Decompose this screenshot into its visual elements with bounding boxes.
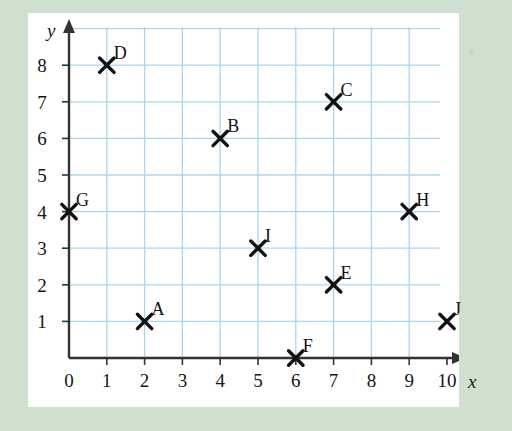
x-tick-label: 10 — [432, 371, 462, 390]
x-tick-label: 2 — [130, 371, 160, 390]
axis-ticks — [62, 65, 447, 365]
plot-canvas — [28, 13, 459, 407]
point-label-h: H — [416, 191, 429, 209]
x-tick-label: 8 — [356, 371, 386, 390]
x-axis-arrowhead — [452, 352, 459, 364]
y-tick-label: 5 — [31, 166, 53, 185]
y-tick-label: 7 — [31, 93, 53, 112]
x-tick-label: 7 — [319, 371, 349, 390]
grid-lines — [69, 27, 440, 358]
point-label-f: F — [303, 337, 313, 355]
x-tick-label: 6 — [281, 371, 311, 390]
x-tick-label: 3 — [167, 371, 197, 390]
x-tick-label: 9 — [394, 371, 424, 390]
chart-white-panel: 01234567891012345678 ABCDEFGHIJ y x — [28, 13, 459, 407]
x-tick-label: 1 — [92, 371, 122, 390]
y-tick-label: 1 — [31, 312, 53, 331]
data-point-j[interactable] — [440, 314, 454, 328]
point-label-d: D — [114, 44, 127, 62]
y-axis-label: y — [47, 21, 55, 40]
point-label-e: E — [341, 264, 352, 282]
point-label-b: B — [227, 117, 239, 135]
x-tick-label: 4 — [205, 371, 235, 390]
x-tick-label: 5 — [243, 371, 273, 390]
y-tick-label: 6 — [31, 129, 53, 148]
point-label-g: G — [76, 191, 89, 209]
y-tick-label: 2 — [31, 276, 53, 295]
y-tick-label: 4 — [31, 203, 53, 222]
x-axis-label: x — [468, 372, 476, 391]
point-label-j: J — [454, 300, 461, 318]
point-label-i: I — [265, 227, 271, 245]
y-tick-label: 8 — [31, 56, 53, 75]
y-tick-label: 3 — [31, 239, 53, 258]
point-label-a: A — [152, 300, 165, 318]
x-tick-label: 0 — [54, 371, 84, 390]
point-label-c: C — [341, 81, 353, 99]
axis-lines — [63, 19, 459, 364]
scatter-plot: 01234567891012345678 ABCDEFGHIJ y x — [28, 13, 459, 407]
page-root: 01234567891012345678 ABCDEFGHIJ y x — [0, 0, 512, 431]
y-axis-arrowhead — [63, 19, 75, 33]
